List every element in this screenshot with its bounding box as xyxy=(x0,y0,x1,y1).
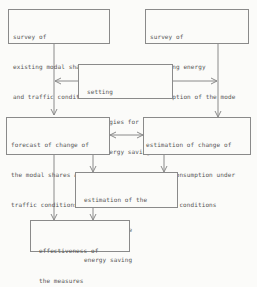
node-forecast-modal-shares: forecast of change of the modal shares a… xyxy=(6,117,110,155)
node-line: survey of xyxy=(150,32,244,42)
node-survey-energy-consumption: survey of existing energy consumption of… xyxy=(145,9,249,44)
node-line: estimation of change of xyxy=(146,140,246,150)
node-estimation-energy-change: estimation of change of energy consumpti… xyxy=(143,117,251,155)
node-line: setting xyxy=(87,87,168,97)
node-line: the measures xyxy=(39,276,121,286)
node-estimation-energy-saving: estimation of the amount of the energy s… xyxy=(75,172,178,208)
node-line: survey of xyxy=(13,32,105,42)
node-survey-modal-shares: survey of existing modal shares and traf… xyxy=(8,9,110,44)
node-line: effectiveness of xyxy=(39,246,121,256)
node-line: estimation of the xyxy=(84,195,173,205)
node-setting-strategies: setting strategies for the energy saving… xyxy=(78,64,173,99)
node-effectiveness-measures: effectiveness of the measures xyxy=(30,220,130,252)
node-line: forecast of change of xyxy=(11,140,105,150)
